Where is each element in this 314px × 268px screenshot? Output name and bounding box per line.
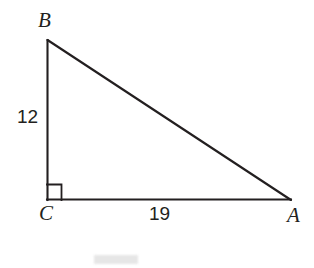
vertex-label-b: B xyxy=(38,10,51,31)
side-length-label-ca: 19 xyxy=(149,204,170,223)
right-angle-marker-icon xyxy=(47,185,62,201)
geometry-figure: B C A 12 19 xyxy=(0,0,314,268)
side-length-label-bc: 12 xyxy=(17,107,38,126)
vertex-label-c: C xyxy=(39,203,53,224)
vertex-label-a: A xyxy=(287,205,300,226)
triangle-drawing xyxy=(0,0,314,268)
triangle-side-ab xyxy=(48,40,292,200)
watermark xyxy=(94,255,138,264)
